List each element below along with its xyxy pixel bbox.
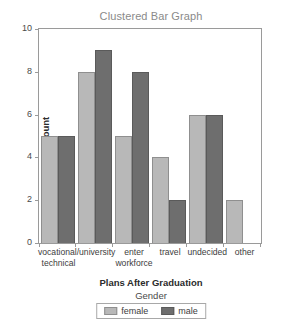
x-tick-label-line: other [227, 247, 262, 258]
legend-label: male [178, 306, 198, 316]
bar-male[interactable] [95, 50, 112, 243]
bar-female[interactable] [152, 157, 169, 243]
bar-group [76, 29, 113, 243]
y-tick-label: 6 [27, 109, 32, 119]
chart-title: Clustered Bar Graph [0, 10, 302, 22]
bar-male[interactable] [206, 115, 223, 243]
plot-inner: 0246810 [39, 29, 261, 243]
bar-female[interactable] [226, 200, 243, 243]
x-tick-label: enterworkforce [115, 247, 152, 269]
bar-group [187, 29, 224, 243]
y-tick-label: 0 [27, 237, 32, 247]
x-tick-label-line: enter [115, 247, 152, 258]
legend-item-male[interactable]: male [161, 306, 198, 316]
y-tick-label: 4 [27, 151, 32, 161]
x-tick-label-line: travel [153, 247, 188, 258]
bar-male[interactable] [58, 136, 75, 243]
x-tick-label-line: undecided [187, 247, 227, 258]
bar-group [150, 29, 187, 243]
bar-female[interactable] [78, 72, 95, 243]
x-tick-label-line: technical [38, 258, 79, 269]
y-tick-label: 10 [22, 23, 32, 33]
x-axis-tick-labels: vocational/technicaluniversityenterworkf… [38, 247, 262, 269]
x-tick-label-line: workforce [115, 258, 152, 269]
plot-area: Count 0246810 [38, 28, 262, 244]
clustered-bar-chart: Clustered Bar Graph Count 0246810 vocati… [0, 0, 302, 330]
bar-female[interactable] [189, 115, 206, 243]
legend-swatch-female [104, 307, 117, 315]
x-tick-label: undecided [187, 247, 227, 269]
bar-female[interactable] [41, 136, 58, 243]
x-tick-label-line: university [79, 247, 115, 258]
bar-male[interactable] [169, 200, 186, 243]
y-tick-label: 2 [27, 194, 32, 204]
bars-area [39, 29, 261, 243]
x-tick-label: other [227, 247, 262, 269]
legend-swatch-male [161, 307, 174, 315]
legend-title: Gender [0, 290, 302, 301]
bar-group [224, 29, 261, 243]
legend: femalemale [96, 303, 206, 319]
legend-item-female[interactable]: female [104, 306, 148, 316]
x-tick-label: travel [153, 247, 188, 269]
x-tick-label: university [79, 247, 115, 269]
legend-label: female [121, 306, 148, 316]
x-axis-label: Plans After Graduation [0, 277, 302, 288]
bar-female[interactable] [115, 136, 132, 243]
bar-group [39, 29, 76, 243]
y-tick-label: 8 [27, 66, 32, 76]
bar-male[interactable] [132, 72, 149, 243]
x-tick-label: vocational/technical [38, 247, 79, 269]
x-tick-label-line: vocational/ [38, 247, 79, 258]
bar-group [113, 29, 150, 243]
